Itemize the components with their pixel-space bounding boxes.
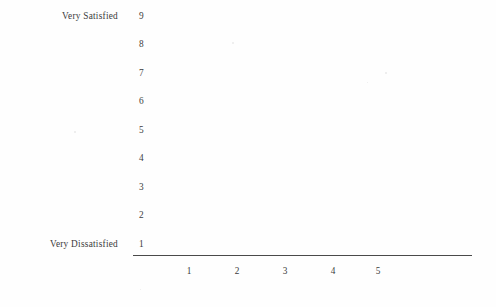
x-axis-tick-label: 5 (370, 266, 386, 276)
x-axis-tick-label: 1 (181, 266, 197, 276)
x-axis-tick-label: 3 (277, 266, 293, 276)
x-axis-tick-label: 2 (229, 266, 245, 276)
chart-canvas: Very Satisfied Very Dissatisfied 9876543… (0, 0, 496, 307)
x-axis-tick-label: 4 (325, 266, 341, 276)
x-axis-scale: 12345 (0, 0, 496, 307)
